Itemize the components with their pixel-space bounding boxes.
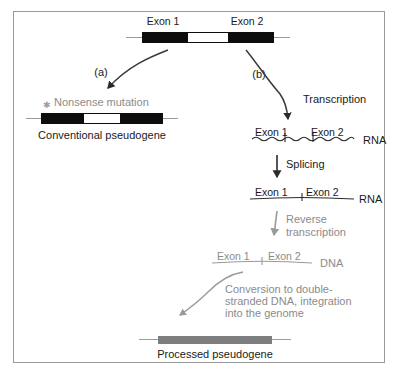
gene-flank-left <box>126 37 142 39</box>
conv-exon1-box <box>41 113 84 124</box>
cdna-exon1-label: Exon 1 <box>217 250 250 262</box>
conversion-label-line1: Conversion to double- <box>225 283 333 296</box>
cdna-exon2-label: Exon 2 <box>268 250 301 262</box>
conversion-label-line3: into the genome <box>225 307 304 320</box>
unspliced-rna-exon1-label: Exon 1 <box>255 126 288 138</box>
unspliced-rna-exon2-label: Exon 2 <box>311 126 344 138</box>
conventional-pseudogene-label: Conventional pseudogene <box>38 129 166 142</box>
conv-flank-left <box>26 118 41 120</box>
branch-a-label: (a) <box>94 66 107 79</box>
conventional-pseudogene-bar <box>26 113 178 124</box>
splicing-label: Splicing <box>286 158 325 171</box>
processed-flank-left <box>139 339 158 341</box>
conv-intron-box <box>84 113 120 124</box>
pseudogene-formation-diagram: Exon 1 Exon 2 (a) (b) ✱ Nonsense mutatio… <box>0 0 407 382</box>
reverse-transcription-label-line2: transcription <box>286 226 346 239</box>
conversion-label-line2: stranded DNA, integration <box>225 295 352 308</box>
top-gene-exon1-label: Exon 1 <box>147 15 180 27</box>
branch-b-label: (b) <box>252 68 265 81</box>
gene-exon1-box <box>142 32 188 43</box>
processed-pseudogene-label: Processed pseudogene <box>157 348 273 361</box>
conv-exon2-box <box>120 113 163 124</box>
star-icon: ✱ <box>43 101 51 110</box>
processed-body <box>158 336 272 344</box>
cdna-tag: DNA <box>320 257 343 270</box>
gene-intron-box <box>188 32 228 43</box>
unspliced-rna-tag: RNA <box>363 134 386 147</box>
reverse-transcription-label-line1: Reverse <box>286 213 327 226</box>
transcription-label: Transcription <box>303 93 366 106</box>
top-gene-exon2-label: Exon 2 <box>231 15 264 27</box>
top-gene-bar <box>126 32 290 43</box>
spliced-rna-tag: RNA <box>359 193 382 206</box>
nonsense-mutation-label: Nonsense mutation <box>54 96 149 109</box>
processed-pseudogene-bar <box>139 334 291 345</box>
spliced-rna-exon2-label: Exon 2 <box>306 186 339 198</box>
processed-flank-right <box>272 339 291 341</box>
gene-exon2-box <box>228 32 274 43</box>
spliced-rna-exon1-label: Exon 1 <box>255 186 288 198</box>
gene-flank-right <box>274 37 290 39</box>
conv-flank-right <box>163 118 178 120</box>
